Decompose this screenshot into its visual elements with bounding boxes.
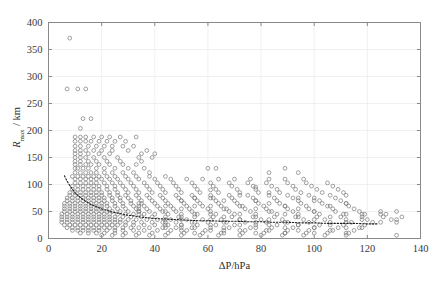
y-tick-label: 200 — [27, 125, 43, 136]
x-tick-label: 120 — [359, 243, 375, 254]
x-tick-labels: 020406080100120140 — [46, 243, 429, 254]
x-axis-title: ΔP/hPa — [219, 260, 251, 271]
y-tick-label: 50 — [32, 206, 43, 217]
x-tick-label: 20 — [96, 243, 107, 254]
y-tick-label: 100 — [27, 179, 43, 190]
x-tick-label: 140 — [413, 243, 429, 254]
y-tick-labels: 050100150200250300350400 — [27, 17, 43, 244]
data-points — [60, 36, 404, 237]
figure-container: 020406080100120140 050100150200250300350… — [0, 0, 442, 289]
y-axis-title-subscript: max — [18, 129, 26, 142]
y-tick-label: 300 — [27, 71, 43, 82]
y-tick-label: 250 — [27, 98, 43, 109]
x-tick-label: 100 — [306, 243, 322, 254]
y-tick-label: 350 — [27, 44, 43, 55]
y-axis-title-unit: / km — [11, 107, 22, 126]
grid-lines — [49, 23, 421, 239]
y-tick-label: 400 — [27, 17, 43, 28]
x-tick-label: 40 — [150, 243, 161, 254]
y-axis-title: R max / km — [11, 107, 26, 149]
x-tick-label: 80 — [256, 243, 267, 254]
scatter-plot: 020406080100120140 050100150200250300350… — [0, 0, 442, 289]
x-tick-label: 60 — [203, 243, 214, 254]
y-tick-label: 0 — [37, 233, 42, 244]
y-tick-label: 150 — [27, 152, 43, 163]
x-tick-label: 0 — [46, 243, 51, 254]
